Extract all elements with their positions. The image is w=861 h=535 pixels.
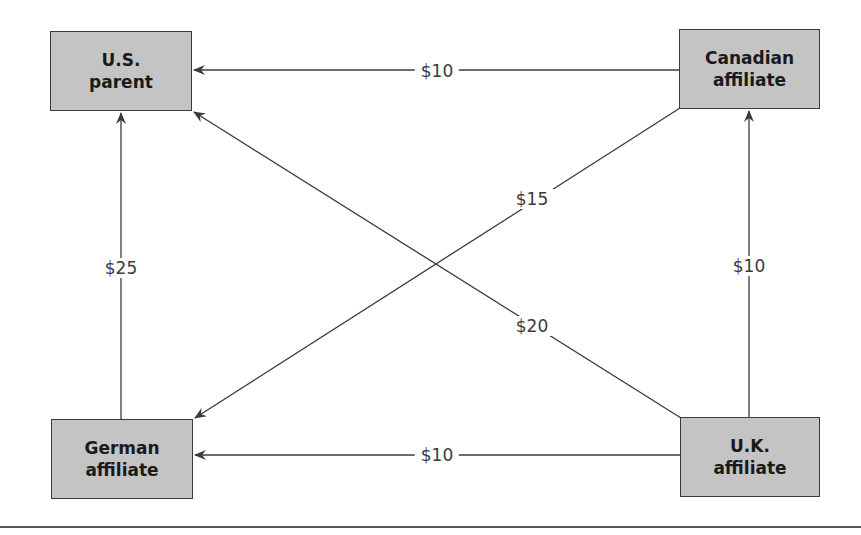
edge-label-ca-to-de: $15 [510, 189, 554, 209]
node-uk-affiliate: U.K.affiliate [680, 417, 820, 497]
node-line2: affiliate [84, 459, 159, 481]
node-german-affiliate: Germanaffiliate [51, 419, 193, 499]
node-line1: U.K. [713, 435, 786, 457]
node-line2: affiliate [705, 69, 794, 91]
node-line2: affiliate [713, 457, 786, 479]
bottom-rule [0, 526, 861, 528]
node-line1: Canadian [705, 47, 794, 69]
node-line2: parent [89, 71, 153, 93]
edge-label-uk-to-de: $10 [415, 445, 459, 465]
node-line1: German [84, 437, 159, 459]
node-line1: U.S. [89, 49, 153, 71]
edge-label-uk-to-us: $20 [510, 316, 554, 336]
node-canadian-affiliate: Canadianaffiliate [679, 29, 820, 109]
edge-label-de-to-us: $25 [99, 258, 143, 278]
node-us-parent: U.S.parent [50, 31, 192, 111]
edge-label-ca-to-us: $10 [415, 61, 459, 81]
edge-label-uk-to-ca: $10 [727, 256, 771, 276]
